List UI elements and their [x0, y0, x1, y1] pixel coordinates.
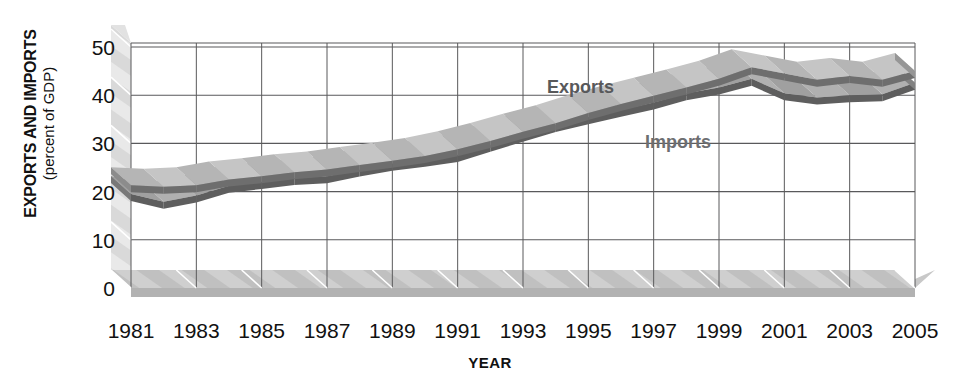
x-tick-label: 1983: [173, 319, 220, 342]
x-tick-label: 2003: [826, 319, 873, 342]
y-tick-label: 10: [92, 229, 115, 252]
x-tick-label: 1981: [108, 319, 155, 342]
x-tick-label: 1999: [696, 319, 743, 342]
x-tick-label: 1987: [304, 319, 351, 342]
x-tick-label: 1989: [369, 319, 416, 342]
y-tick-label: 30: [92, 132, 115, 155]
y-tick-label: 0: [103, 277, 115, 300]
chart-graphics: [111, 25, 935, 297]
x-tick-label: 1991: [434, 319, 481, 342]
x-axis-title: YEAR: [468, 354, 512, 371]
chart-svg: 0102030405019811983198519871989199119931…: [0, 0, 958, 389]
x-tick-label: 2001: [761, 319, 808, 342]
y-tick-label: 20: [92, 181, 115, 204]
x-tick-label: 1993: [500, 319, 547, 342]
x-tick-label: 2005: [892, 319, 939, 342]
x-tick-label: 1995: [565, 319, 612, 342]
x-tick-label: 1985: [238, 319, 285, 342]
x-tick-label: 1997: [630, 319, 677, 342]
y-tick-label: 50: [92, 36, 115, 59]
chart-container: EXPORTS AND IMPORTS (percent of GDP) 010…: [0, 0, 958, 389]
y-tick-label: 40: [92, 84, 115, 107]
